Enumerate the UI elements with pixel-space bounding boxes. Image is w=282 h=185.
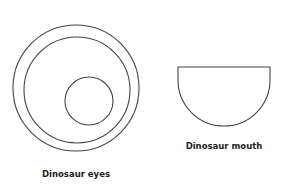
- diagram-canvas: Dinosaur eyes Dinosaur mouth: [0, 0, 282, 185]
- eye-pupil-circle: [65, 77, 113, 125]
- dinosaur-mouth-figure: Dinosaur mouth: [178, 67, 270, 151]
- dinosaur-eyes-figure: Dinosaur eyes: [13, 25, 139, 179]
- mouth-half-circle: [178, 67, 270, 126]
- eye-outer-circle: [13, 25, 139, 151]
- dinosaur-mouth-label: Dinosaur mouth: [186, 141, 263, 151]
- dinosaur-eyes-label: Dinosaur eyes: [42, 169, 110, 179]
- eye-inner-circle: [24, 37, 130, 143]
